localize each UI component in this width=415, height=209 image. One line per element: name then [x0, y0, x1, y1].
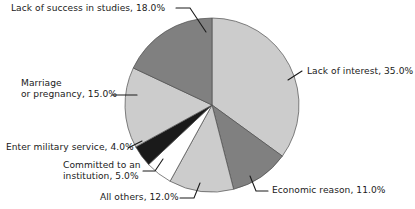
slice-label-institution-line2: institution, 5.0% — [63, 171, 139, 182]
slice-label-lack-of-success: Lack of success in studies, 18.0% — [11, 3, 165, 14]
slice-label-marriage-line2: or pregnancy, 15.0% — [21, 89, 117, 100]
slice-label-all-others: All others, 12.0% — [100, 192, 179, 203]
slice-label-lack-of-interest: Lack of interest, 35.0% — [307, 66, 413, 77]
slice-label-institution-line1: Committed to an — [63, 160, 141, 171]
slice-label-economic: Economic reason, 11.0% — [272, 185, 385, 196]
slice-label-marriage-line1: Marriage — [21, 78, 62, 89]
slice-label-military: Enter military service, 4.0% — [6, 142, 134, 153]
pie-chart-figure: Lack of success in studies, 18.0% Lack o… — [0, 0, 415, 209]
pie-slices-group — [125, 18, 299, 192]
